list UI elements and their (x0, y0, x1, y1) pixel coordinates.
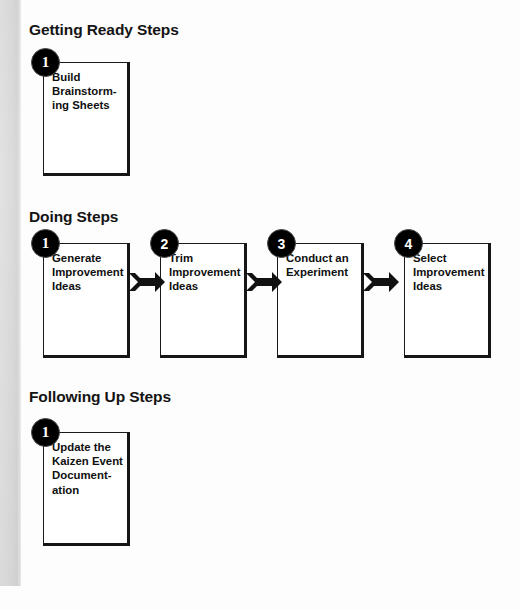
section-heading-doing: Doing Steps (29, 208, 118, 226)
step-number-badge-doing-4: 4 (394, 229, 423, 258)
arrow-right-icon (246, 269, 282, 295)
diagram-page: Getting Ready Steps Build Brainstorm- in… (0, 0, 520, 610)
step-box-select-improvement-ideas: Select Improvement Ideas (404, 243, 491, 358)
step-box-update-kaizen-event-documentation: Update the Kaizen Event Document- ation (43, 432, 130, 546)
step-box-conduct-an-experiment: Conduct an Experiment (277, 243, 364, 358)
arrow-right-icon (363, 269, 399, 295)
step-box-label: Conduct an Experiment (286, 251, 357, 279)
step-number-badge-fu-1: 1 (31, 418, 60, 447)
step-number-badge-doing-2: 2 (150, 229, 179, 258)
step-box-label: Trim Improvement Ideas (169, 251, 240, 294)
step-box-build-brainstorming-sheets: Build Brainstorm- ing Sheets (43, 62, 130, 176)
step-box-trim-improvement-ideas: Trim Improvement Ideas (160, 243, 247, 358)
step-box-label: Generate Improvement Ideas (52, 251, 123, 294)
step-number-badge-gr-1: 1 (31, 48, 60, 77)
step-box-label: Select Improvement Ideas (413, 251, 484, 294)
step-box-label: Build Brainstorm- ing Sheets (52, 70, 123, 113)
step-number-badge-doing-3: 3 (267, 229, 296, 258)
scan-edge-band (0, 0, 21, 586)
step-box-generate-improvement-ideas: Generate Improvement Ideas (43, 243, 130, 358)
section-heading-following-up: Following Up Steps (29, 388, 171, 406)
step-box-label: Update the Kaizen Event Document- ation (52, 440, 123, 497)
section-heading-getting-ready: Getting Ready Steps (29, 21, 179, 39)
arrow-right-icon (129, 269, 165, 295)
step-number-badge-doing-1: 1 (31, 229, 60, 258)
